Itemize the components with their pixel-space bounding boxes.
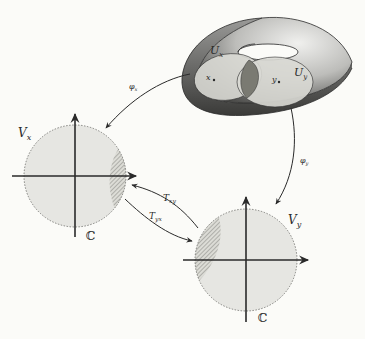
point-y-label: y <box>271 75 277 84</box>
label-phi-x: φx <box>129 82 138 92</box>
label-c-vy: ℂ <box>258 311 268 325</box>
manifold-diagram: Ux Uy x y φx φy Vx ℂ Vy ℂ Txy Tyx <box>0 0 365 339</box>
point-x-label: x <box>206 73 211 82</box>
map-txy-arrow <box>132 185 198 228</box>
point-y <box>278 81 280 83</box>
label-txy: Txy <box>163 193 176 205</box>
map-phi-x-arrow <box>106 74 190 128</box>
label-vy: Vy <box>288 213 302 229</box>
label-vx: Vx <box>18 126 32 142</box>
point-x <box>213 79 215 81</box>
label-phi-y: φy <box>300 156 309 167</box>
label-c-vx: ℂ <box>86 229 96 243</box>
map-phi-y-arrow <box>276 108 294 204</box>
